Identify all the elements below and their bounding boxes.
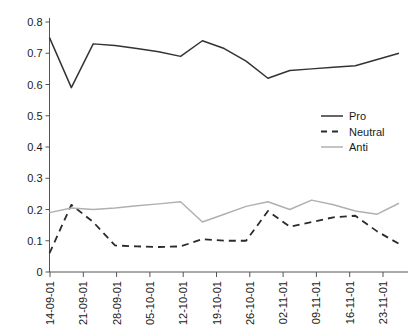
- y-tick-label: 0.5: [27, 110, 42, 122]
- line-chart: 00.10.20.30.40.50.60.70.8 14-09-0121-09-…: [0, 0, 416, 326]
- chart-canvas: 00.10.20.30.40.50.60.70.8 14-09-0121-09-…: [0, 0, 416, 326]
- y-tick-label: 0.4: [27, 141, 42, 153]
- y-tick-label: 0.1: [27, 235, 42, 247]
- x-tick-label: 05-10-01: [144, 281, 156, 325]
- x-tick-label: 26-10-01: [244, 281, 256, 325]
- y-tick-label: 0.7: [27, 47, 42, 59]
- legend-label-anti: Anti: [349, 141, 368, 153]
- x-tick-label: 28-09-01: [111, 281, 123, 325]
- series-line-neutral: [50, 205, 400, 253]
- y-tick-label: 0.8: [27, 16, 42, 28]
- y-tick-label: 0: [36, 266, 42, 278]
- x-tick-label: 23-11-01: [377, 281, 389, 324]
- legend-label-neutral: Neutral: [349, 126, 384, 138]
- y-axis: 00.10.20.30.40.50.60.70.8: [27, 16, 49, 278]
- y-tick-label: 0.3: [27, 172, 42, 184]
- series-line-anti: [50, 200, 400, 222]
- y-tick-label: 0.6: [27, 79, 42, 91]
- legend-label-pro: Pro: [349, 110, 366, 122]
- y-tick-label: 0.2: [27, 204, 42, 216]
- x-tick-label: 14-09-01: [44, 281, 56, 325]
- chart-legend: ProNeutralAnti: [321, 110, 384, 153]
- x-tick-label: 16-11-01: [344, 281, 356, 324]
- x-tick-label: 21-09-01: [77, 281, 89, 325]
- x-axis: 14-09-0121-09-0128-09-0105-10-0112-10-01…: [44, 272, 408, 325]
- x-tick-label: 19-10-01: [211, 281, 223, 325]
- plot-area: 00.10.20.30.40.50.60.70.8 14-09-0121-09-…: [27, 16, 408, 325]
- x-tick-label: 09-11-01: [310, 281, 322, 324]
- x-tick-label: 12-10-01: [177, 281, 189, 325]
- series-line-pro: [50, 38, 400, 88]
- data-series-group: [50, 38, 400, 254]
- x-tick-label: 02-11-01: [277, 281, 289, 324]
